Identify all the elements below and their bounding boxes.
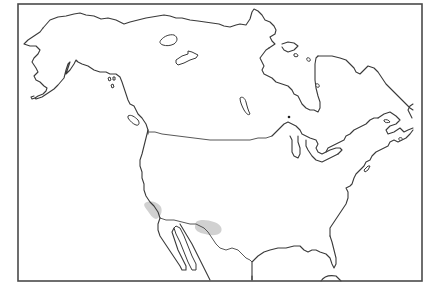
canada-us-border: [148, 118, 378, 162]
lake-huron-erie: [306, 140, 338, 162]
outline-map: [0, 0, 424, 284]
coastlines: [24, 9, 276, 134]
haida-gwaii-island-1: [108, 77, 111, 81]
map-svg: [0, 0, 424, 284]
hudson-island-3: [316, 84, 320, 88]
keewatin-hudson-west-coast: [260, 48, 320, 112]
cuba-top: [321, 276, 341, 281]
quebec-labrador-coast: [318, 56, 413, 110]
hudson-island-2: [307, 58, 311, 62]
us-atlantic-coast: [330, 130, 413, 236]
marker-dot: [288, 116, 291, 119]
vancouver-island: [128, 115, 139, 125]
great-slave-lake: [176, 51, 198, 65]
alaska-peninsula: [31, 96, 35, 99]
long-island: [364, 166, 370, 172]
anticosti-island: [384, 120, 390, 123]
haida-gwaii-island-3: [111, 84, 114, 88]
gulf-coast: [252, 236, 336, 280]
nova-scotia: [378, 112, 413, 134]
shaded-regions: [144, 202, 221, 236]
lake-michigan: [290, 136, 300, 158]
49th-parallel-border: [148, 132, 272, 140]
great-lakes-outline: [272, 118, 378, 154]
lake-winnipeg: [240, 97, 250, 114]
hudson-bay-region: [240, 42, 413, 118]
lake-ontario: [326, 148, 342, 154]
us-mexico-coasts: [140, 104, 413, 281]
baffin-south-tip: [282, 42, 298, 52]
haida-gwaii-island-2: [113, 77, 115, 80]
pei-island: [399, 138, 403, 141]
great-bear-lake: [160, 35, 177, 46]
map-frame-border: [18, 4, 422, 281]
hudson-island-1: [294, 54, 298, 57]
